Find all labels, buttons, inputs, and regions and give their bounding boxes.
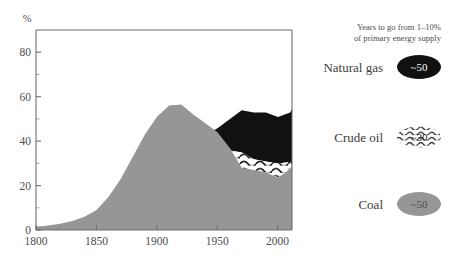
- legend-badge-crude-oil: ~30: [411, 131, 428, 143]
- x-tick-label-1850: 1850: [85, 235, 108, 247]
- x-tick-label-1950: 1950: [206, 235, 229, 247]
- y-tick-label-20: 20: [20, 180, 32, 192]
- legend-label-crude-oil: Crude oil: [334, 130, 383, 145]
- legend-header-line-2: of primary energy supply: [354, 33, 442, 43]
- x-tick-label-1800: 1800: [25, 235, 48, 247]
- legend-item-crude-oil[interactable]: Crude oil ~30: [334, 125, 443, 151]
- x-tick-label-2000: 2000: [266, 235, 289, 247]
- legend: Years to go from 1–10% of primary energy…: [323, 22, 443, 216]
- legend-item-natural-gas[interactable]: Natural gas ~50: [323, 55, 441, 79]
- legend-header-line-1: Years to go from 1–10%: [357, 22, 441, 32]
- plot-area: [36, 104, 292, 230]
- legend-label-natural-gas: Natural gas: [323, 60, 383, 75]
- legend-item-coal[interactable]: Coal ~50: [358, 192, 441, 216]
- y-axis-unit-label: %: [23, 13, 32, 24]
- y-axis-major-ticks: [36, 52, 41, 230]
- legend-label-coal: Coal: [358, 197, 383, 212]
- chart-canvas: % 0 20 40 60 80 1800 1850 1900 1950 2000…: [0, 0, 454, 264]
- chart-figure: % 0 20 40 60 80 1800 1850 1900 1950 2000…: [0, 0, 454, 264]
- y-tick-label-60: 60: [20, 91, 32, 103]
- legend-badge-natural-gas: ~50: [411, 61, 428, 73]
- y-tick-label-40: 40: [20, 135, 32, 147]
- y-tick-label-80: 80: [20, 46, 32, 58]
- x-tick-label-1900: 1900: [145, 235, 168, 247]
- x-axis-minor-ticks: [48, 227, 290, 230]
- legend-badge-coal: ~50: [411, 198, 428, 210]
